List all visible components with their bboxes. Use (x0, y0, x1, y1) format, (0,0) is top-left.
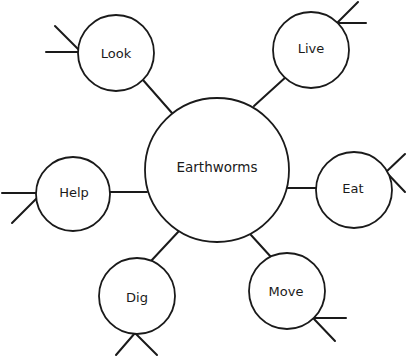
prong-dig-right (135, 333, 157, 355)
connector-move (251, 235, 271, 257)
node-label: Live (298, 41, 325, 56)
node-eat: Eat (316, 152, 392, 228)
node-move: Move (249, 253, 325, 329)
concept-web-diagram: Earthworms Look Live Help Eat Dig Move (0, 0, 407, 357)
prong-eat-upper (386, 154, 405, 172)
prong-help-diagonal (12, 197, 38, 223)
diagram-canvas: Earthworms Look Live Help Eat Dig Move (0, 0, 407, 357)
connector-live (254, 76, 287, 106)
node-live: Live (273, 12, 349, 88)
prong-look-diagonal (55, 26, 80, 51)
node-look: Look (78, 15, 154, 91)
node-label: Look (101, 46, 132, 61)
prong-live-diagonal (337, 2, 358, 23)
node-label: Help (59, 185, 89, 200)
connector-dig (151, 231, 179, 261)
node-label: Move (269, 284, 304, 299)
prong-dig-left (116, 333, 135, 355)
center-label: Earthworms (177, 159, 258, 175)
node-help: Help (36, 157, 110, 231)
connector-look (143, 80, 172, 113)
prong-move-diagonal (314, 319, 335, 341)
node-label: Eat (342, 181, 363, 196)
node-dig: Dig (99, 258, 175, 334)
node-label: Dig (126, 290, 148, 305)
center-node: Earthworms (145, 98, 289, 242)
